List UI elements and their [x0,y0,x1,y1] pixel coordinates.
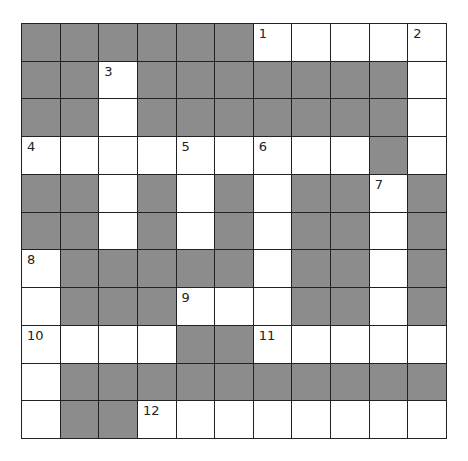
crossword-block [215,213,253,250]
crossword-cell[interactable]: 8 [22,250,60,287]
crossword-block [99,250,137,287]
crossword-block [99,401,137,438]
crossword-block [22,99,60,136]
crossword-cell[interactable] [292,137,330,174]
crossword-cell[interactable] [408,99,446,136]
crossword-block [61,401,99,438]
clue-number: 12 [143,404,160,417]
crossword-cell[interactable]: 7 [370,175,408,212]
crossword-cell[interactable] [215,288,253,325]
crossword-cell[interactable] [215,401,253,438]
crossword-cell[interactable] [292,24,330,61]
crossword-cell[interactable] [292,401,330,438]
crossword-block [61,99,99,136]
crossword-block [138,24,176,61]
crossword-block [331,175,369,212]
crossword-cell[interactable] [370,288,408,325]
crossword-block [61,213,99,250]
crossword-cell[interactable] [177,175,215,212]
crossword-cell[interactable]: 4 [22,137,60,174]
crossword-cell[interactable]: 1 [254,24,292,61]
crossword-block [292,62,330,99]
crossword-block [177,99,215,136]
crossword-cell[interactable] [254,250,292,287]
crossword-block [138,213,176,250]
crossword-block [177,24,215,61]
crossword-cell[interactable] [331,401,369,438]
crossword-block [215,175,253,212]
crossword-block [22,213,60,250]
crossword-cell[interactable] [61,326,99,363]
crossword-block [292,175,330,212]
clue-number: 8 [27,253,35,266]
crossword-cell[interactable] [331,24,369,61]
crossword-cell[interactable] [370,213,408,250]
clue-number: 11 [259,329,276,342]
crossword-cell[interactable]: 12 [138,401,176,438]
crossword-cell[interactable]: 6 [254,137,292,174]
crossword-block [22,175,60,212]
crossword-cell[interactable] [99,175,137,212]
crossword-cell[interactable] [254,401,292,438]
crossword-cell[interactable] [22,288,60,325]
crossword-block [61,62,99,99]
crossword-block [215,364,253,401]
crossword-cell[interactable]: 3 [99,62,137,99]
clue-number: 4 [27,140,35,153]
crossword-cell[interactable] [177,213,215,250]
crossword-cell[interactable]: 2 [408,24,446,61]
crossword-cell[interactable] [99,326,137,363]
crossword-cell[interactable] [331,137,369,174]
crossword-block [61,175,99,212]
crossword-block [215,250,253,287]
crossword-block [370,62,408,99]
crossword-block [177,364,215,401]
crossword-block [408,364,446,401]
crossword-block [99,288,137,325]
crossword-block [215,62,253,99]
crossword-block [215,99,253,136]
crossword-block [331,213,369,250]
crossword-cell[interactable] [99,99,137,136]
crossword-cell[interactable] [22,364,60,401]
crossword-cell[interactable] [408,62,446,99]
crossword-block [408,288,446,325]
crossword-cell[interactable] [408,326,446,363]
crossword-cell[interactable] [370,250,408,287]
crossword-cell[interactable] [138,326,176,363]
clue-number: 6 [259,140,267,153]
crossword-cell[interactable] [22,401,60,438]
crossword-block [61,24,99,61]
crossword-block [331,62,369,99]
crossword-cell[interactable] [177,401,215,438]
crossword-block [177,250,215,287]
crossword-cell[interactable]: 11 [254,326,292,363]
crossword-cell[interactable] [215,137,253,174]
crossword-cell[interactable] [99,213,137,250]
crossword-cell[interactable] [370,401,408,438]
crossword-cell[interactable] [61,137,99,174]
crossword-block [331,364,369,401]
crossword-cell[interactable]: 9 [177,288,215,325]
crossword-cell[interactable] [138,137,176,174]
crossword-block [138,250,176,287]
crossword-block [254,62,292,99]
crossword-cell[interactable] [254,175,292,212]
crossword-block [99,364,137,401]
crossword-block [99,24,137,61]
crossword-block [370,364,408,401]
crossword-cell[interactable] [408,401,446,438]
crossword-cell[interactable] [254,288,292,325]
clue-number: 9 [182,291,190,304]
crossword-cell[interactable] [331,326,369,363]
crossword-cell[interactable] [370,326,408,363]
crossword-cell[interactable]: 10 [22,326,60,363]
crossword-block [138,288,176,325]
crossword-cell[interactable] [370,24,408,61]
crossword-cell[interactable] [292,326,330,363]
crossword-cell[interactable] [408,137,446,174]
crossword-cell[interactable] [99,137,137,174]
crossword-block [22,62,60,99]
crossword-cell[interactable] [254,213,292,250]
crossword-cell[interactable]: 5 [177,137,215,174]
